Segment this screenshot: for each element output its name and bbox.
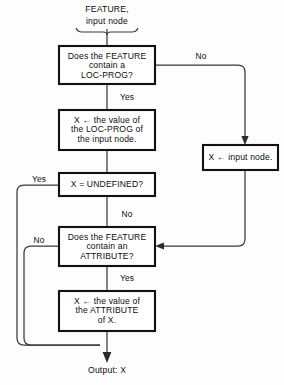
node-decide-locprog-line3: LOC-PROG? xyxy=(81,70,133,80)
node-assign-attribute[interactable]: X ← the value of the ATTRIBUTE of X. xyxy=(59,291,155,331)
node-decide-attribute-line3: ATTRIBUTE? xyxy=(80,251,133,261)
node-decide-undefined[interactable]: X = UNDEFINED? xyxy=(59,173,155,196)
node-decide-locprog-line1: Does the FEATURE xyxy=(68,51,147,61)
node-assign-attribute-line3: of X. xyxy=(98,315,116,325)
edge-label-attribute-no: No xyxy=(33,235,44,245)
node-assign-attribute-line1: X ← the value of xyxy=(74,296,140,306)
node-assign-attribute-line2: the ATTRIBUTE xyxy=(76,305,139,315)
arrowhead-output xyxy=(103,352,112,363)
node-decide-attribute-line2: contain an xyxy=(86,241,127,251)
edge-label-locprog-yes: Yes xyxy=(120,92,134,102)
node-assign-input-node-line1: X ← input node. xyxy=(209,152,273,162)
node-decide-attribute-line1: Does the FEATURE xyxy=(68,232,147,242)
edge-input-node-to-attribute xyxy=(163,170,245,246)
node-decide-attribute[interactable]: Does the FEATURE contain an ATTRIBUTE? xyxy=(59,227,155,266)
edge-label-attribute-yes: Yes xyxy=(120,273,134,283)
edge-label-undefined-yes: Yes xyxy=(32,174,46,184)
node-assign-locprog-line2: the LOC-PROG of xyxy=(71,124,143,134)
flowchart-diagram: FEATURE, input node Does the FEATURE con… xyxy=(0,0,284,385)
node-assign-locprog[interactable]: X ← the value of the LOC-PROG of the inp… xyxy=(59,110,155,150)
output-caption: Output: X xyxy=(88,365,126,375)
arrowhead-to-input-node xyxy=(241,136,248,145)
edge-locprog-no xyxy=(155,65,245,138)
input-caption-line2: input node xyxy=(86,16,128,26)
input-caption-line1: FEATURE, xyxy=(85,4,128,14)
node-decide-locprog-line2: contain a xyxy=(89,60,125,70)
node-assign-locprog-line1: X ← the value of xyxy=(74,115,140,125)
arrowhead-to-decide-attribute xyxy=(155,242,164,249)
flowchart-canvas: FEATURE, input node Does the FEATURE con… xyxy=(0,0,284,385)
node-decide-locprog[interactable]: Does the FEATURE contain a LOC-PROG? xyxy=(59,46,155,84)
edge-label-locprog-no: No xyxy=(195,51,206,61)
node-assign-input-node[interactable]: X ← input node. xyxy=(203,145,278,170)
edge-label-undefined-no: No xyxy=(121,209,132,219)
node-decide-undefined-line1: X = UNDEFINED? xyxy=(71,179,144,189)
node-assign-locprog-line3: the input node. xyxy=(77,134,136,144)
